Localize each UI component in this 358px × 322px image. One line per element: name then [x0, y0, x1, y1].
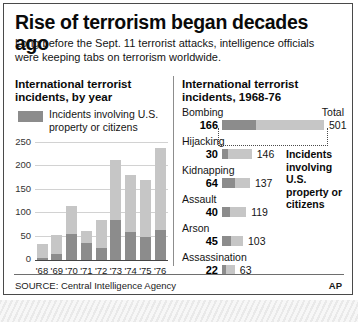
source-label: SOURCE: Central Intelligence Agency: [15, 280, 176, 291]
category-label-assassination: Assassination: [182, 251, 247, 263]
gridline: 250: [35, 142, 168, 143]
bar-73: [110, 160, 121, 260]
total-value-assault: 119: [251, 206, 268, 218]
panel-divider: [173, 76, 174, 266]
bar-segment-other: [155, 148, 166, 230]
legend-swatch-us: [18, 111, 43, 122]
infographic-frame: Rise of terrorism began decades ago Long…: [3, 3, 353, 295]
bar-70: [66, 206, 77, 260]
us-value-arson: 45: [184, 235, 218, 247]
subhead: Long before the Sept. 11 terrorist attac…: [15, 37, 337, 64]
hbar-arson: [222, 236, 243, 246]
bar-68: [37, 244, 48, 260]
total-value-hijacking: 146: [257, 148, 275, 160]
gridline: 200: [35, 165, 168, 166]
category-label-bombing: Bombing: [182, 106, 223, 118]
total-value-arson: 103: [248, 235, 266, 247]
category-label-kidnapping: Kidnapping: [182, 164, 235, 176]
bar-71: [81, 231, 92, 260]
bar-segment-other: [125, 175, 136, 233]
us-value-bombing: 166: [184, 119, 218, 131]
y-axis-tick-label: 50: [20, 230, 31, 241]
bar-segment-us: [37, 258, 48, 260]
bar-segment-other: [66, 206, 77, 234]
hbar-segment-us: [222, 120, 256, 130]
y-axis-tick-label: 100: [15, 206, 31, 217]
hbar-segment-us: [222, 207, 230, 217]
category-label-hijacking: Hijacking: [182, 135, 225, 147]
right-chart-title: International terrorist incidents, 1968-…: [182, 78, 344, 104]
right-chart-panel: International terrorist incidents, 1968-…: [182, 78, 348, 273]
us-value-assault: 40: [184, 206, 218, 218]
bar-segment-us: [81, 243, 92, 260]
bar-segment-us: [51, 254, 62, 260]
left-chart-title: International terrorist incidents, by ye…: [15, 78, 170, 104]
bar-segment-other: [81, 231, 92, 243]
hbar-bombing: [222, 120, 324, 130]
bar-segment-other: [140, 180, 151, 237]
hbar-hijacking: [222, 149, 252, 159]
bar-segment-other: [51, 235, 62, 254]
bar-segment-other: [110, 160, 121, 220]
total-value-kidnapping: 137: [255, 177, 273, 189]
bar-72: [96, 220, 107, 260]
legend-label: Incidents involving U.S. property or cit…: [49, 108, 169, 133]
category-label-assault: Assault: [182, 193, 216, 205]
bar-segment-us: [125, 232, 136, 260]
bar-segment-us: [155, 230, 166, 260]
hbar-segment-us: [222, 178, 235, 188]
bar-74: [125, 175, 136, 260]
bar-segment-other: [37, 244, 48, 258]
bar-segment-us: [110, 220, 121, 260]
callout-connector: [218, 128, 328, 146]
us-value-hijacking: 30: [184, 148, 218, 160]
bar-segment-other: [96, 220, 107, 248]
ap-credit: AP: [329, 280, 342, 291]
annotation-text: Incidents involving U.S. property or cit…: [286, 148, 348, 211]
category-label-arson: Arson: [182, 222, 209, 234]
y-axis-tick-label: 200: [15, 159, 31, 170]
bar-75: [140, 180, 151, 260]
bar-69: [51, 235, 62, 260]
bar-segment-us: [140, 237, 151, 260]
hbar-kidnapping: [222, 178, 250, 188]
bar-chart-plot: 050100150200250'68'69'70'71'72'73'74'75'…: [35, 142, 168, 261]
total-column-header: Total: [322, 106, 344, 118]
hbar-assault: [222, 207, 246, 217]
total-value-bombing: 501: [329, 119, 347, 131]
bar-segment-us: [66, 234, 77, 260]
us-value-kidnapping: 64: [184, 177, 218, 189]
hbar-segment-us: [222, 236, 231, 246]
page-texture: [0, 300, 358, 322]
y-axis-tick-label: 250: [15, 136, 31, 147]
footer-rule: [14, 274, 344, 275]
left-chart-panel: International terrorist incidents, by ye…: [15, 78, 170, 268]
x-axis-line: [35, 260, 168, 261]
y-axis-tick-label: 0: [26, 253, 31, 264]
y-axis-tick-label: 150: [15, 183, 31, 194]
hbar-segment-us: [222, 149, 228, 159]
bar-segment-us: [96, 248, 107, 260]
bar-76: [155, 148, 166, 260]
